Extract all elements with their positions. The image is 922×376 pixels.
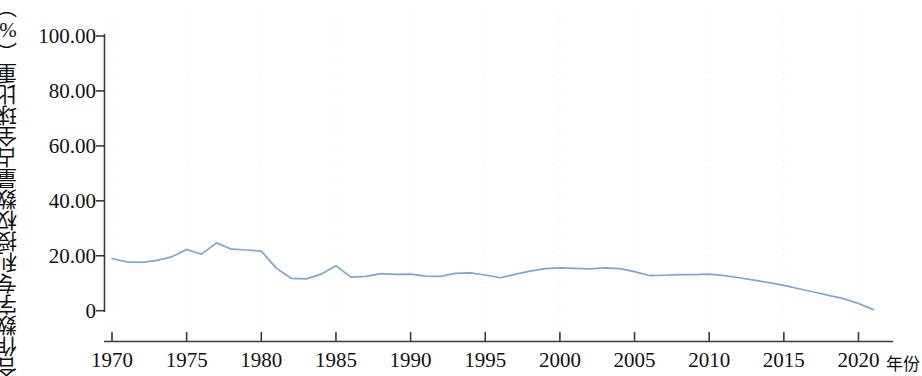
x-axis-title: 年份 [886,350,920,375]
plot-area [0,0,922,376]
x-tick-label: 1980 [240,348,282,373]
x-tick-label: 2020 [838,348,880,373]
x-tick-label: 2005 [614,348,656,373]
x-tick-label: 1970 [91,348,133,373]
x-tick-label: 2010 [688,348,730,373]
x-tick-label: 1975 [166,348,208,373]
x-tick-label: 2000 [539,348,581,373]
data-line-series-0 [112,243,873,310]
x-tick-label: 1985 [315,348,357,373]
chart-figure: 合作数字专利授权数量占全球比重（%） 100.00 80.00 60.00 40… [0,0,922,376]
grid-lines [112,12,859,336]
x-tick-label: 1995 [464,348,506,373]
y-tick-marks [96,36,104,311]
axis-lines [104,34,893,342]
x-tick-marks [112,332,859,341]
x-tick-label: 2015 [763,348,805,373]
x-tick-label: 1990 [390,348,432,373]
